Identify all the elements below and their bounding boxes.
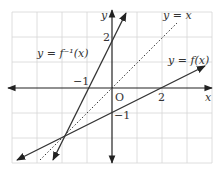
tick-y-2: 2 (103, 31, 110, 44)
finverse-label: y = f⁻¹(x) (36, 47, 89, 60)
graph-canvas: y x O 2 2 −1 −1 y = f⁻¹(x) y = f(x) y = … (0, 0, 215, 175)
identity-label: y = x (162, 9, 192, 22)
tick-x-neg1: −1 (73, 75, 89, 88)
y-axis-label: y (100, 9, 108, 22)
origin-label: O (115, 91, 124, 104)
tick-y-neg1: −1 (114, 109, 130, 122)
f-label: y = f(x) (167, 54, 209, 67)
tick-x-2: 2 (158, 91, 165, 104)
x-axis-label: x (205, 91, 212, 104)
